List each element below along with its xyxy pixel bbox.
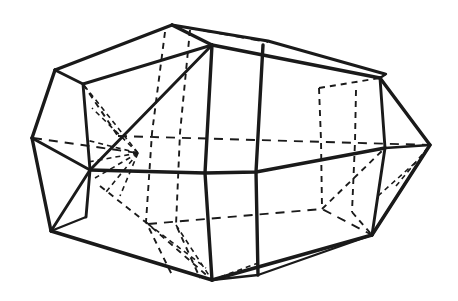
polyhedron-figure [0, 0, 458, 301]
polyhedron-drawing [0, 0, 458, 301]
figure-background [0, 0, 458, 301]
